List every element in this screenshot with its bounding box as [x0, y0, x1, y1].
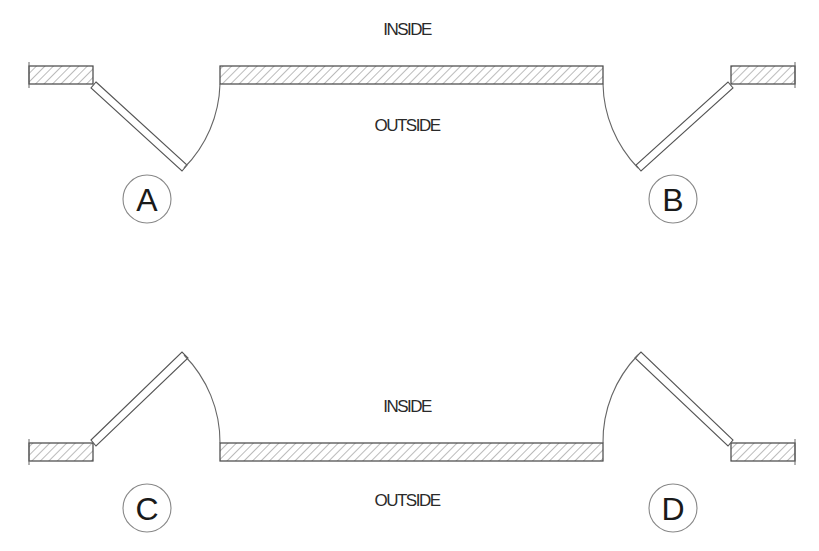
wall-segment-bottom-left — [29, 443, 93, 461]
bottom-outside-label: OUTSIDE — [374, 491, 440, 510]
door-swing-arc-c — [184, 355, 220, 443]
wall-segment-bottom-center — [220, 443, 603, 461]
wall-segment-bottom-right — [731, 443, 795, 461]
door-swing-arc-b — [603, 84, 638, 168]
bottom-inside-label: INSIDE — [383, 397, 432, 416]
tag-letter-b: B — [662, 182, 683, 218]
tag-d: D — [649, 484, 697, 532]
door-leaf-b — [636, 82, 733, 171]
door-c — [91, 352, 220, 446]
door-swing-arc-d — [603, 355, 638, 443]
top-inside-label: INSIDE — [383, 20, 432, 39]
door-a — [91, 82, 220, 171]
top-outside-label: OUTSIDE — [374, 116, 440, 135]
bottom-panel: INSIDE OUTSIDE C D — [29, 352, 795, 532]
tag-a: A — [123, 175, 171, 223]
tag-letter-c: C — [135, 491, 158, 527]
door-leaf-a — [91, 82, 187, 171]
wall-segment-top-center — [220, 66, 603, 84]
door-b — [603, 82, 733, 171]
tag-b: B — [649, 175, 697, 223]
door-swing-arc-a — [184, 84, 220, 168]
tag-letter-d: D — [661, 491, 684, 527]
tag-letter-a: A — [136, 182, 158, 218]
wall-segment-top-left — [29, 66, 93, 84]
tag-c: C — [123, 484, 171, 532]
door-leaf-d — [635, 352, 733, 446]
wall-segment-top-right — [731, 66, 795, 84]
top-panel: INSIDE OUTSIDE A B — [29, 20, 795, 223]
door-leaf-c — [91, 352, 188, 446]
door-d — [603, 352, 733, 446]
door-swing-diagram: INSIDE OUTSIDE A B INSIDE OUTSIDE — [0, 0, 819, 551]
